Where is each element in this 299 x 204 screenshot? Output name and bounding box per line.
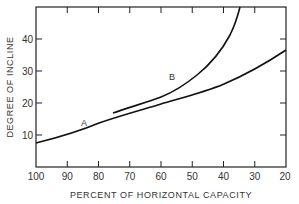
- y-ticks-left: [36, 39, 42, 135]
- y-tick-label: 30: [22, 66, 34, 77]
- y-axis-title: DEGREE OF INCLINE: [5, 36, 15, 137]
- y-tick-labels: 10 20 30 40: [22, 34, 34, 141]
- x-tick-label: 60: [155, 171, 167, 182]
- y-tick-label: 40: [22, 34, 34, 45]
- x-tick-label: 100: [28, 171, 45, 182]
- x-tick-label: 90: [62, 171, 74, 182]
- plot-frame: [36, 7, 286, 167]
- curve-b-label: B: [169, 72, 175, 82]
- x-ticks-bottom: [67, 161, 255, 167]
- y-tick-label: 10: [22, 130, 34, 141]
- chart: 100 90 80 70 60 50 40 30 20 10 20 30 40 …: [0, 0, 299, 204]
- x-tick-label: 70: [124, 171, 136, 182]
- x-tick-label: 40: [218, 171, 230, 182]
- x-axis-title: PERCENT OF HORIZONTAL CAPACITY: [70, 190, 252, 200]
- y-tick-label: 20: [22, 98, 34, 109]
- curve-b: [113, 7, 240, 113]
- curve-a-label: A: [81, 118, 87, 128]
- x-tick-label: 30: [249, 171, 261, 182]
- x-ticks-top: [67, 7, 255, 13]
- x-tick-labels: 100 90 80 70 60 50 40 30 20: [28, 171, 291, 182]
- x-tick-label: 80: [93, 171, 105, 182]
- x-tick-label: 50: [187, 171, 199, 182]
- x-tick-label: 20: [279, 171, 291, 182]
